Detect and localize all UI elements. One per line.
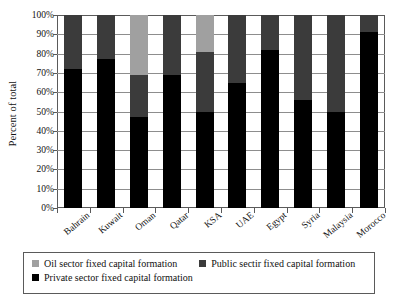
bar-segment-private: [97, 59, 115, 208]
legend-row-top: Oil sector fixed capital formation Publi…: [32, 258, 366, 269]
y-axis-tick-label: 30%: [37, 145, 54, 155]
y-axis-tick-label: 40%: [37, 126, 54, 136]
y-axis-tick-label: 50%: [37, 107, 54, 117]
bar-segment-private: [130, 117, 148, 208]
bar-bahrain: [64, 15, 82, 208]
legend-label-public: Public sectir fixed capital formation: [211, 258, 355, 269]
bar-ksa: [196, 15, 214, 208]
bar-segment-public: [196, 52, 214, 112]
bar-segment-public: [261, 15, 279, 50]
bar-kuwait: [97, 15, 115, 208]
y-axis-tick-label: 80%: [37, 49, 54, 59]
bar-syria: [294, 15, 312, 208]
legend-label-private: Private sector fixed capital formation: [44, 272, 193, 283]
y-axis-tick-label: 10%: [37, 184, 54, 194]
y-axis-title-text: Percent of total: [8, 80, 19, 146]
y-axis-tick-label: 70%: [37, 68, 54, 78]
legend-item-oil: Oil sector fixed capital formation: [32, 258, 177, 269]
x-axis-tick-mark: [385, 208, 386, 213]
plot-area: 100%90%80%70%60%50%40%30%20%10%0%: [57, 15, 385, 208]
legend-row-bottom: Private sector fixed capital formation: [32, 272, 366, 283]
bar-segment-private: [64, 69, 82, 208]
bar-segment-private: [228, 83, 246, 208]
bar-qatar: [163, 15, 181, 208]
y-axis-title: Percent of total: [2, 48, 24, 178]
legend-item-private: Private sector fixed capital formation: [32, 272, 193, 283]
bar-group: [57, 15, 385, 208]
bar-morocco: [360, 15, 378, 208]
legend-swatch-public-icon: [199, 260, 206, 267]
bar-segment-public: [360, 15, 378, 32]
bar-uae: [228, 15, 246, 208]
bar-segment-private: [163, 75, 181, 208]
legend-swatch-oil-icon: [32, 260, 39, 267]
bar-segment-public: [130, 75, 148, 117]
y-axis-tick-label: 20%: [37, 164, 54, 174]
bar-segment-private: [294, 100, 312, 208]
y-axis-tick-label: 60%: [37, 87, 54, 97]
bar-segment-public: [97, 15, 115, 59]
bar-segment-oil: [196, 15, 214, 52]
bar-oman: [130, 15, 148, 208]
bar-egypt: [261, 15, 279, 208]
bar-malaysia: [327, 15, 345, 208]
bar-segment-public: [327, 15, 345, 112]
x-axis-labels: BahrainKuwaitOmanQatarKSAUAEEgyptSyriaMa…: [57, 210, 385, 250]
legend-label-oil: Oil sector fixed capital formation: [44, 258, 177, 269]
y-axis-tick-label: 90%: [37, 29, 54, 39]
chart-legend: Oil sector fixed capital formation Publi…: [23, 252, 375, 294]
bar-segment-public: [64, 15, 82, 69]
bar-segment-private: [261, 50, 279, 208]
bar-segment-private: [327, 112, 345, 209]
bar-segment-public: [163, 15, 181, 75]
bar-segment-public: [294, 15, 312, 100]
legend-swatch-private-icon: [32, 274, 39, 281]
legend-item-public: Public sectir fixed capital formation: [199, 258, 355, 269]
y-axis-tick-label: 100%: [32, 10, 54, 20]
bar-segment-private: [196, 112, 214, 209]
chart-figure: Percent of total 100%90%80%70%60%50%40%3…: [0, 0, 396, 308]
bar-segment-private: [360, 32, 378, 208]
bar-segment-oil: [130, 15, 148, 75]
bar-segment-public: [228, 15, 246, 83]
